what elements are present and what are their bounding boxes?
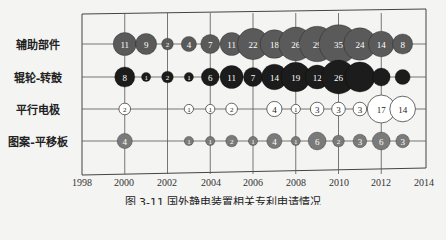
x-tick-2000: 2000 (114, 177, 134, 188)
bubble: 1 (142, 72, 151, 81)
bubble: 6 (201, 68, 219, 86)
bubble: 1 (206, 104, 215, 113)
bubble-value: 6 (208, 73, 213, 83)
bubble: 3 (396, 134, 410, 148)
bubble-value: 22 (249, 40, 258, 50)
bubble-value: 1 (251, 138, 255, 146)
bubble: 6 (308, 132, 326, 150)
bubble-value: 2 (230, 138, 234, 146)
bubble-value: 35 (334, 40, 344, 50)
bubble: 3 (353, 134, 367, 148)
x-tick-2008: 2008 (286, 177, 306, 188)
bubble-value: 3 (315, 105, 320, 115)
bubble (372, 68, 390, 86)
x-tick-2002: 2002 (157, 177, 177, 188)
bubble-value: 2 (123, 106, 127, 114)
bubble-value: 12 (313, 73, 322, 83)
bubble: 3 (332, 102, 346, 116)
bubbles-layer: 1192471122182629352414881216117141912262… (113, 25, 415, 150)
bubble: 3 (353, 102, 367, 116)
bubble-value: 7 (208, 40, 213, 50)
bubble-value: 1 (209, 106, 213, 114)
bubble-value: 2 (166, 41, 170, 49)
bubble: 9 (136, 33, 157, 54)
figure-caption: 图 3-11 国外静电装置相关专利申请情况 (0, 193, 446, 205)
bubble: 2 (162, 71, 174, 83)
bubble-value: 14 (398, 105, 408, 115)
bubble: 1 (184, 104, 193, 113)
row-label-parallel-electrode: 平行电极 (0, 101, 76, 117)
bubble-value: 26 (334, 73, 344, 83)
bubble-value: 1 (144, 74, 148, 82)
bubble: 1 (184, 72, 193, 81)
bubble-value: 9 (144, 40, 149, 50)
bubble-value: 19 (291, 73, 301, 83)
bubble-value: 4 (187, 40, 192, 50)
bubble-value: 8 (400, 40, 405, 50)
x-tick-2012: 2012 (371, 177, 391, 188)
row-label-roller-drum: 辊轮-转鼓 (0, 69, 76, 85)
bubble-value: 6 (315, 137, 320, 147)
bubble: 4 (267, 101, 282, 116)
bubble: 11 (113, 32, 136, 55)
bubble: 3 (310, 102, 324, 116)
bubble: 2 (119, 103, 131, 115)
bubble-value: 4 (123, 137, 128, 147)
bubble-value: 11 (227, 73, 236, 83)
x-tick-2014: 2014 (414, 177, 434, 188)
bubble-value: 1 (294, 138, 298, 146)
bubble-value: 8 (123, 73, 128, 83)
bubble: 14 (368, 31, 394, 57)
row-label-auxiliary-parts: 辅助部件 (0, 36, 76, 52)
bubble-value: 2 (230, 106, 234, 114)
bubble-value: 4 (272, 137, 277, 147)
bubble-value: 14 (270, 73, 280, 83)
bubble-value: 6 (379, 137, 384, 147)
bubble: 2 (226, 135, 238, 147)
bubble-value: 11 (227, 40, 236, 50)
bubble: 1 (291, 136, 300, 145)
bubble-value: 3 (358, 105, 363, 115)
x-tick-2010: 2010 (329, 177, 349, 188)
bubble-value: 4 (272, 105, 277, 115)
bubble: 11 (220, 65, 243, 88)
bubble-value: 3 (336, 105, 341, 115)
bubble-value: 11 (120, 40, 129, 50)
bubble: 7 (243, 67, 262, 86)
bubble: 1 (291, 104, 300, 113)
row-label-pattern-translation-plate: 图案-平移板 (0, 133, 76, 149)
bubble: 4 (181, 36, 196, 51)
bubble: 2 (226, 103, 238, 115)
bubble-value: 24 (355, 40, 365, 50)
bubble-value: 2 (166, 74, 170, 82)
bubble-value: 3 (358, 137, 363, 147)
bubble-value: 7 (251, 73, 256, 83)
bubble: 1 (248, 136, 257, 145)
bubble: 8 (393, 34, 413, 54)
bubble: 4 (117, 133, 132, 148)
x-tick-2004: 2004 (201, 177, 221, 188)
bubble-value: 2 (337, 138, 341, 146)
bubble-value: 14 (377, 40, 387, 50)
x-tick-1998: 1998 (72, 177, 92, 188)
bubble-value: 3 (400, 137, 405, 147)
bubble: 14 (390, 96, 416, 122)
bubble (345, 62, 375, 92)
bubble: 1 (184, 136, 193, 145)
x-tick-2006: 2006 (243, 177, 263, 188)
bubble (395, 69, 410, 84)
bubble: 2 (162, 38, 174, 50)
bubble-value: 1 (209, 138, 213, 146)
bubble-value: 1 (187, 138, 191, 146)
bubble-value: 1 (187, 74, 191, 82)
bubble: 8 (115, 67, 135, 87)
bubble-value: 17 (377, 105, 387, 115)
bubble: 6 (372, 132, 390, 150)
bubble: 7 (201, 34, 220, 53)
bubble-value: 18 (270, 40, 280, 50)
bubble: 4 (267, 133, 282, 148)
bubble: 1 (206, 136, 215, 145)
bubble-value: 1 (187, 106, 191, 114)
bubble: 2 (333, 135, 345, 147)
bubble-value: 1 (294, 106, 298, 114)
